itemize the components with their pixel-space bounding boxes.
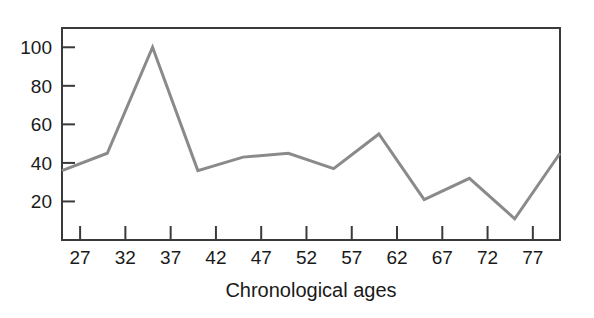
x-tick-label: 62: [386, 247, 407, 268]
plot-border: [62, 28, 560, 240]
y-axis-ticks: [62, 47, 75, 201]
y-axis-tick-labels: 20406080100: [20, 37, 52, 212]
plot-frame: [62, 28, 560, 240]
series-line-score: [62, 47, 560, 219]
x-tick-label: 77: [522, 247, 543, 268]
x-tick-label: 52: [296, 247, 317, 268]
x-axis-title: Chronological ages: [225, 279, 396, 301]
y-tick-label: 100: [20, 37, 52, 58]
y-tick-label: 80: [31, 76, 52, 97]
y-tick-label: 60: [31, 114, 52, 135]
x-axis-tick-labels: 2732374247525762677277: [70, 247, 544, 268]
x-tick-label: 67: [432, 247, 453, 268]
x-tick-label: 42: [205, 247, 226, 268]
x-tick-label: 47: [251, 247, 272, 268]
x-tick-label: 27: [70, 247, 91, 268]
data-series-group: [62, 47, 560, 219]
y-tick-label: 20: [31, 191, 52, 212]
x-tick-label: 72: [477, 247, 498, 268]
x-tick-label: 37: [160, 247, 181, 268]
line-chart: 20406080100 2732374247525762677277 Chron…: [0, 0, 594, 318]
x-tick-label: 57: [341, 247, 362, 268]
x-axis-ticks: [80, 226, 533, 240]
y-tick-label: 40: [31, 153, 52, 174]
x-tick-label: 32: [115, 247, 136, 268]
chart-figure: 20406080100 2732374247525762677277 Chron…: [0, 0, 594, 318]
